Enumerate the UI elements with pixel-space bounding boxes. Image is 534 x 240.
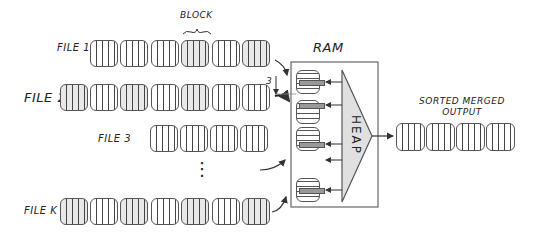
buffer-size-label: 3 bbox=[266, 76, 272, 86]
brace-icon bbox=[183, 29, 211, 34]
heap-label: HEAP bbox=[349, 115, 363, 155]
diagram-strokes bbox=[0, 0, 534, 240]
